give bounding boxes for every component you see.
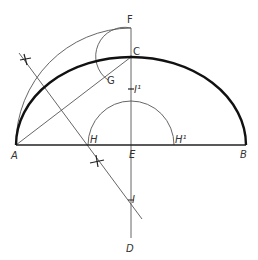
chord-a-c bbox=[16, 57, 131, 145]
label-h1: H¹ bbox=[175, 134, 187, 145]
label-d: D bbox=[126, 243, 134, 254]
point-c-dot bbox=[130, 56, 133, 59]
arc-f-to-g bbox=[96, 27, 131, 80]
label-h: H bbox=[90, 134, 98, 145]
label-i1: I¹ bbox=[134, 84, 141, 95]
label-f: F bbox=[127, 14, 133, 25]
cross-mark-upper bbox=[20, 54, 31, 65]
label-a: A bbox=[10, 150, 18, 161]
arc-a-to-f bbox=[16, 28, 131, 145]
label-b: B bbox=[240, 149, 247, 160]
label-e: E bbox=[129, 149, 136, 160]
perpendicular-bisector bbox=[19, 53, 142, 219]
label-g: G bbox=[107, 75, 115, 86]
label-i: I bbox=[132, 194, 135, 205]
geometric-construction-diagram: F C G I¹ A H E H¹ B I D bbox=[0, 0, 258, 260]
label-c: C bbox=[133, 46, 140, 57]
